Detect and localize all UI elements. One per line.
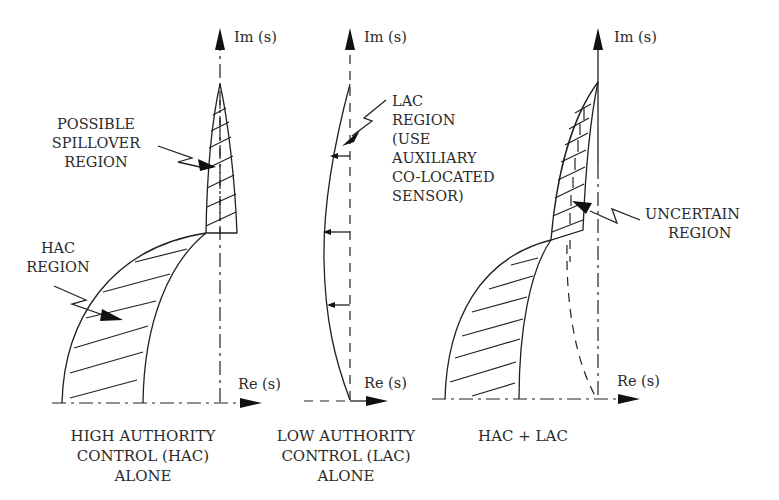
re-axis-arrow-icon: [240, 398, 262, 408]
svg-text:(USE: (USE: [392, 131, 430, 147]
caption-hac-lac: HAC + LAC: [478, 427, 568, 445]
callout-lac-region: LAC REGION (USE AUXILIARY CO-LOCATED SEN…: [342, 93, 495, 204]
svg-text:AUXILIARY: AUXILIARY: [391, 150, 477, 166]
svg-text:CO-LOCATED: CO-LOCATED: [392, 169, 495, 185]
svg-text:HAC + LAC: HAC + LAC: [478, 427, 568, 445]
svg-text:SPILLOVER: SPILLOVER: [52, 135, 141, 151]
im-axis-arrow-icon: [593, 28, 603, 50]
lac-shifted-locus: [567, 245, 597, 399]
hac-lac-outer-locus: [445, 240, 551, 399]
spillover-region-shape: [206, 84, 237, 233]
re-axis-arrow-icon: [366, 396, 388, 406]
re-axis-label: Re (s): [617, 373, 660, 389]
svg-text:SENSOR): SENSOR): [392, 188, 464, 204]
callout-possible-spillover: POSSIBLE SPILLOVER REGION: [52, 116, 216, 171]
svg-text:CONTROL (HAC): CONTROL (HAC): [77, 447, 209, 465]
svg-text:REGION: REGION: [26, 259, 90, 275]
zigzag-leader: [352, 100, 386, 136]
zigzag-leader: [54, 286, 106, 316]
svg-text:HIGH AUTHORITY: HIGH AUTHORITY: [71, 427, 217, 445]
im-axis-label: Im (s): [614, 29, 657, 45]
callout-uncertain-region: UNCERTAIN REGION: [572, 201, 740, 241]
panel-lac: Im (s) Re (s) LAC REGION (USE AUXILIARY …: [277, 28, 495, 485]
svg-text:POSSIBLE: POSSIBLE: [57, 116, 135, 132]
root-locus-diagram: Im (s) Re (s) POSSIB: [0, 0, 779, 500]
svg-text:LOW AUTHORITY: LOW AUTHORITY: [277, 427, 417, 445]
re-axis-label: Re (s): [364, 375, 407, 391]
re-axis-label: Re (s): [238, 376, 281, 392]
im-axis-label: Im (s): [364, 29, 407, 45]
svg-text:UNCERTAIN: UNCERTAIN: [645, 206, 740, 222]
svg-text:REGION: REGION: [64, 154, 128, 170]
hac-lac-inner-locus: [519, 240, 551, 399]
damping-arrows: [323, 153, 350, 308]
im-axis-arrow-icon: [215, 28, 225, 50]
lac-locus: [324, 84, 350, 400]
svg-text:ALONE: ALONE: [316, 467, 374, 485]
svg-text:REGION: REGION: [668, 225, 732, 241]
pointer-arrow-icon: [100, 309, 123, 321]
hac-inner-locus: [143, 233, 206, 403]
panel-hac-lac: Im (s) Re (s): [432, 28, 740, 445]
zigzag-leader: [158, 146, 200, 167]
svg-text:HAC: HAC: [41, 240, 75, 256]
im-axis-label: Im (s): [234, 29, 277, 45]
panel-hac: Im (s) Re (s) POSSIB: [26, 28, 281, 485]
re-axis-arrow-icon: [618, 394, 640, 404]
caption-lac: LOW AUTHORITY CONTROL (LAC) ALONE: [277, 427, 417, 485]
caption-hac: HIGH AUTHORITY CONTROL (HAC) ALONE: [71, 427, 217, 485]
im-axis-arrow-icon: [345, 28, 355, 50]
pointer-arrow-icon: [572, 201, 592, 214]
svg-text:CONTROL (LAC): CONTROL (LAC): [281, 447, 410, 465]
svg-text:ALONE: ALONE: [113, 467, 171, 485]
svg-text:LAC: LAC: [392, 93, 423, 109]
svg-text:REGION: REGION: [392, 112, 456, 128]
